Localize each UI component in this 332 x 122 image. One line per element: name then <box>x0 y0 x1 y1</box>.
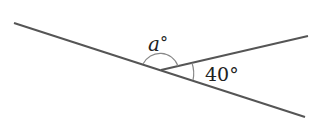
angle-40-label: 40° <box>205 63 239 85</box>
angle-40-arc <box>192 63 194 80</box>
angle-a-label: a° <box>148 32 168 56</box>
angle-diagram: a° 40° <box>0 0 332 122</box>
